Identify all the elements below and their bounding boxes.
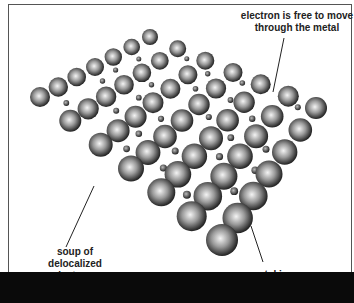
electron-icon xyxy=(230,187,238,195)
metal-ion-sphere xyxy=(169,40,186,57)
metal-ion-sphere xyxy=(49,77,68,96)
electron-icon xyxy=(100,78,105,83)
label-soup-line1: soup of xyxy=(30,246,120,258)
electron-icon xyxy=(206,114,212,120)
pointer-line-metal-ion xyxy=(251,226,263,262)
metal-ion-sphere xyxy=(59,110,81,132)
metal-ion-sphere xyxy=(216,109,239,132)
electron-icon xyxy=(263,146,270,153)
metal-ion-sphere xyxy=(233,92,254,113)
electron-icon xyxy=(295,104,301,110)
electron-icon xyxy=(172,148,179,155)
electron-icon xyxy=(113,67,118,72)
metal-ion-sphere xyxy=(125,106,147,128)
metal-ion-sphere xyxy=(89,133,113,157)
metal-ion-sphere xyxy=(147,178,175,206)
electron-icon xyxy=(136,95,142,101)
pointer-line-soup xyxy=(66,186,94,247)
metal-ion-sphere xyxy=(272,139,297,164)
metal-ion-sphere xyxy=(160,79,180,99)
metal-ion-sphere xyxy=(114,75,134,95)
metal-ion-sphere xyxy=(78,98,99,119)
electron-icon xyxy=(249,116,255,122)
metal-ion-sphere xyxy=(171,109,194,132)
bottom-bar xyxy=(0,272,354,303)
electron-icon xyxy=(63,100,69,106)
metal-ion-sphere xyxy=(177,201,207,231)
metal-ions xyxy=(30,29,327,256)
metal-ion-sphere xyxy=(206,224,238,256)
electron-icon xyxy=(113,108,119,114)
metal-ion-sphere xyxy=(206,78,226,98)
metal-ion-sphere xyxy=(142,29,158,45)
metal-ion-sphere xyxy=(178,65,197,84)
electron-icon xyxy=(193,86,199,92)
metal-ion-sphere xyxy=(289,118,313,142)
metal-ion-sphere xyxy=(188,94,209,115)
metal-ion-sphere xyxy=(105,48,122,65)
electron-icon xyxy=(136,57,141,62)
metal-ion-sphere xyxy=(96,87,116,107)
metal-ion-sphere xyxy=(305,97,327,119)
electron-icon xyxy=(205,71,210,76)
electron-icon xyxy=(216,153,223,160)
metal-ion-sphere xyxy=(224,63,243,82)
label-electron-free-line1: electron is free to move xyxy=(240,10,354,22)
electron-icon xyxy=(123,145,130,152)
electron-icon xyxy=(136,131,143,138)
label-electron-free: electron is free to move through the met… xyxy=(240,10,354,34)
electron-icon xyxy=(240,80,246,86)
label-electron-free-line2: through the metal xyxy=(240,22,354,34)
electron-icon xyxy=(183,191,191,199)
metal-ion-sphere xyxy=(278,86,299,107)
pointer-line-electron xyxy=(273,38,284,92)
metal-ion-sphere xyxy=(244,124,268,148)
electron-icon xyxy=(227,134,234,141)
metal-ion-sphere xyxy=(143,92,164,113)
metal-ion-sphere xyxy=(251,74,271,94)
electron-icon xyxy=(228,97,234,103)
metal-ion-sphere xyxy=(86,58,104,76)
electron-icon xyxy=(149,82,154,87)
metal-ion-sphere xyxy=(123,39,140,56)
metal-ion-sphere xyxy=(196,52,214,70)
electron-icon xyxy=(184,56,189,61)
electron-icon xyxy=(158,116,164,122)
metal-ion-sphere xyxy=(133,64,152,83)
metal-ion-sphere xyxy=(261,105,284,128)
metal-ion-sphere xyxy=(118,156,144,182)
label-soup-line2: delocalized xyxy=(30,258,120,270)
metal-ion-sphere xyxy=(151,52,169,70)
metal-ion-sphere xyxy=(30,87,50,107)
metal-ion-sphere xyxy=(67,68,86,87)
